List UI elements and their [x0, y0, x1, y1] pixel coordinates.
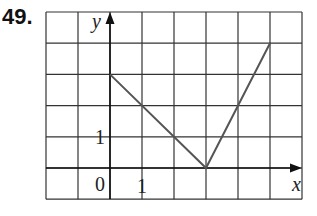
y-tick-label-1: 1 — [95, 126, 105, 148]
y-axis-label: y — [90, 10, 101, 33]
x-axis-label: x — [291, 173, 301, 195]
x-tick-label-1: 1 — [137, 175, 147, 197]
coordinate-graph: y x 0 1 1 — [0, 0, 317, 216]
x-axis-arrow-icon — [290, 164, 302, 173]
grid-lines — [46, 12, 302, 199]
origin-label: 0 — [95, 173, 105, 195]
y-axis-arrow-icon — [106, 12, 115, 24]
